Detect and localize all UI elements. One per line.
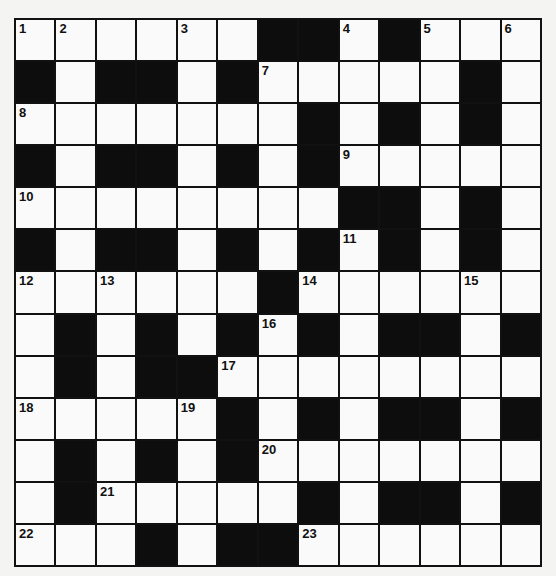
crossword-cell[interactable] bbox=[56, 399, 94, 439]
crossword-cell[interactable]: 8 bbox=[16, 104, 54, 144]
crossword-cell[interactable] bbox=[56, 188, 94, 228]
crossword-cell[interactable] bbox=[97, 315, 135, 355]
crossword-cell[interactable] bbox=[56, 146, 94, 186]
crossword-cell[interactable] bbox=[178, 483, 216, 523]
crossword-cell[interactable]: 3 bbox=[178, 20, 216, 60]
crossword-cell[interactable] bbox=[178, 315, 216, 355]
crossword-cell[interactable] bbox=[502, 272, 540, 312]
crossword-cell[interactable] bbox=[56, 104, 94, 144]
crossword-cell[interactable] bbox=[340, 357, 378, 397]
crossword-cell[interactable]: 15 bbox=[461, 272, 499, 312]
crossword-cell[interactable] bbox=[97, 357, 135, 397]
crossword-cell[interactable]: 6 bbox=[502, 20, 540, 60]
crossword-cell[interactable] bbox=[299, 441, 337, 481]
crossword-cell[interactable] bbox=[502, 188, 540, 228]
crossword-cell[interactable] bbox=[299, 188, 337, 228]
crossword-cell[interactable] bbox=[461, 483, 499, 523]
crossword-cell[interactable] bbox=[56, 525, 94, 565]
crossword-cell[interactable] bbox=[461, 357, 499, 397]
crossword-cell[interactable]: 21 bbox=[97, 483, 135, 523]
crossword-cell[interactable] bbox=[178, 146, 216, 186]
crossword-cell[interactable] bbox=[97, 20, 135, 60]
crossword-cell[interactable] bbox=[56, 272, 94, 312]
crossword-cell[interactable] bbox=[137, 272, 175, 312]
crossword-cell[interactable]: 2 bbox=[56, 20, 94, 60]
crossword-cell[interactable] bbox=[340, 62, 378, 102]
crossword-cell[interactable] bbox=[380, 441, 418, 481]
crossword-cell[interactable] bbox=[340, 272, 378, 312]
crossword-cell[interactable]: 18 bbox=[16, 399, 54, 439]
crossword-cell[interactable] bbox=[218, 272, 256, 312]
crossword-cell[interactable] bbox=[178, 188, 216, 228]
crossword-cell[interactable] bbox=[56, 230, 94, 270]
crossword-cell[interactable]: 11 bbox=[340, 230, 378, 270]
crossword-cell[interactable]: 7 bbox=[259, 62, 297, 102]
crossword-cell[interactable] bbox=[137, 483, 175, 523]
crossword-cell[interactable] bbox=[16, 441, 54, 481]
crossword-cell[interactable]: 9 bbox=[340, 146, 378, 186]
crossword-cell[interactable] bbox=[421, 357, 459, 397]
crossword-cell[interactable]: 12 bbox=[16, 272, 54, 312]
crossword-cell[interactable] bbox=[340, 441, 378, 481]
crossword-cell[interactable] bbox=[502, 146, 540, 186]
crossword-cell[interactable] bbox=[421, 146, 459, 186]
crossword-cell[interactable] bbox=[340, 315, 378, 355]
crossword-cell[interactable] bbox=[421, 525, 459, 565]
crossword-cell[interactable]: 13 bbox=[97, 272, 135, 312]
crossword-cell[interactable] bbox=[16, 483, 54, 523]
crossword-cell[interactable] bbox=[97, 104, 135, 144]
crossword-cell[interactable]: 14 bbox=[299, 272, 337, 312]
crossword-cell[interactable] bbox=[461, 399, 499, 439]
crossword-cell[interactable] bbox=[178, 62, 216, 102]
crossword-cell[interactable] bbox=[178, 104, 216, 144]
crossword-cell[interactable]: 23 bbox=[299, 525, 337, 565]
crossword-cell[interactable] bbox=[299, 357, 337, 397]
crossword-cell[interactable] bbox=[137, 188, 175, 228]
crossword-cell[interactable]: 17 bbox=[218, 357, 256, 397]
crossword-cell[interactable] bbox=[421, 62, 459, 102]
crossword-cell[interactable] bbox=[340, 525, 378, 565]
crossword-cell[interactable] bbox=[461, 525, 499, 565]
crossword-cell[interactable] bbox=[421, 272, 459, 312]
crossword-cell[interactable] bbox=[380, 357, 418, 397]
crossword-cell[interactable]: 10 bbox=[16, 188, 54, 228]
crossword-cell[interactable]: 1 bbox=[16, 20, 54, 60]
crossword-cell[interactable] bbox=[259, 483, 297, 523]
crossword-cell[interactable] bbox=[178, 272, 216, 312]
crossword-cell[interactable] bbox=[259, 104, 297, 144]
crossword-cell[interactable] bbox=[340, 399, 378, 439]
crossword-cell[interactable] bbox=[380, 146, 418, 186]
crossword-cell[interactable] bbox=[502, 357, 540, 397]
crossword-cell[interactable] bbox=[421, 230, 459, 270]
crossword-cell[interactable]: 16 bbox=[259, 315, 297, 355]
crossword-cell[interactable] bbox=[259, 146, 297, 186]
crossword-cell[interactable] bbox=[259, 399, 297, 439]
crossword-cell[interactable] bbox=[56, 62, 94, 102]
crossword-cell[interactable] bbox=[461, 20, 499, 60]
crossword-cell[interactable] bbox=[299, 62, 337, 102]
crossword-cell[interactable] bbox=[97, 441, 135, 481]
crossword-cell[interactable] bbox=[97, 525, 135, 565]
crossword-cell[interactable] bbox=[97, 399, 135, 439]
crossword-cell[interactable] bbox=[421, 104, 459, 144]
crossword-cell[interactable] bbox=[461, 441, 499, 481]
crossword-cell[interactable] bbox=[461, 146, 499, 186]
crossword-cell[interactable] bbox=[178, 441, 216, 481]
crossword-cell[interactable] bbox=[502, 62, 540, 102]
crossword-cell[interactable] bbox=[16, 315, 54, 355]
crossword-cell[interactable] bbox=[218, 20, 256, 60]
crossword-cell[interactable] bbox=[502, 104, 540, 144]
crossword-cell[interactable] bbox=[218, 104, 256, 144]
crossword-cell[interactable] bbox=[502, 441, 540, 481]
crossword-cell[interactable] bbox=[259, 188, 297, 228]
crossword-cell[interactable] bbox=[16, 357, 54, 397]
crossword-cell[interactable] bbox=[340, 483, 378, 523]
crossword-cell[interactable] bbox=[421, 441, 459, 481]
crossword-cell[interactable]: 5 bbox=[421, 20, 459, 60]
crossword-cell[interactable] bbox=[502, 230, 540, 270]
crossword-cell[interactable] bbox=[380, 272, 418, 312]
crossword-cell[interactable] bbox=[218, 483, 256, 523]
crossword-cell[interactable] bbox=[340, 104, 378, 144]
crossword-cell[interactable]: 19 bbox=[178, 399, 216, 439]
crossword-cell[interactable]: 22 bbox=[16, 525, 54, 565]
